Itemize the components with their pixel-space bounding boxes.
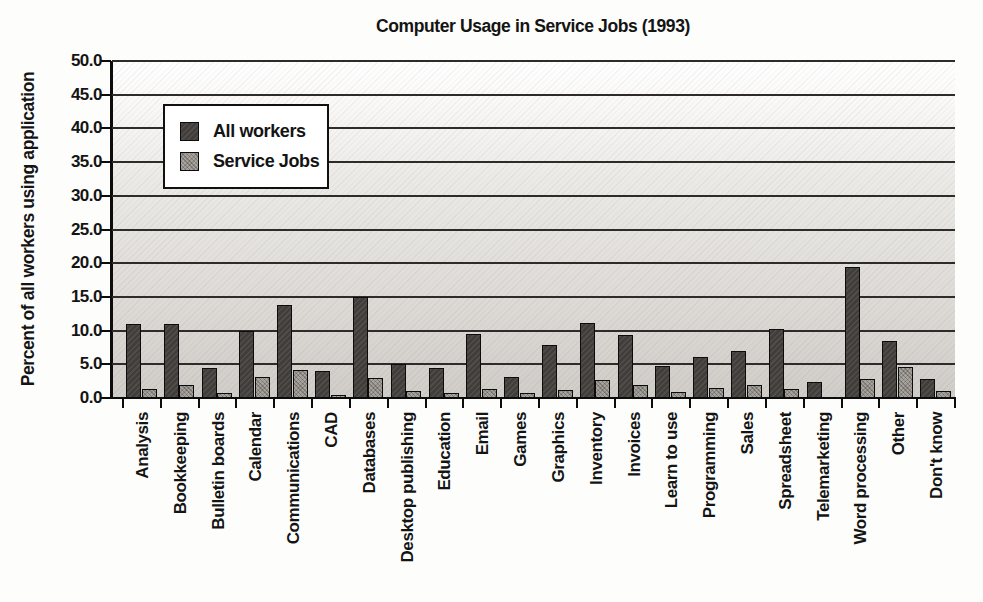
x-axis-label: Education bbox=[434, 412, 455, 597]
bar-all-workers-telemarketing bbox=[807, 382, 822, 398]
bar-all-workers-don-t-know bbox=[920, 379, 935, 398]
bar-service-jobs-other bbox=[898, 367, 913, 398]
x-axis-label: Calendar bbox=[245, 412, 266, 597]
legend-item-all-workers: All workers bbox=[180, 121, 327, 142]
x-axis-label: Invoices bbox=[624, 412, 645, 597]
y-tick-label: 30.0 bbox=[52, 186, 102, 206]
gridline-50 bbox=[112, 60, 955, 62]
x-tick bbox=[954, 398, 956, 408]
x-axis-label: Inventory bbox=[586, 412, 607, 597]
x-tick bbox=[122, 398, 124, 408]
y-tick bbox=[101, 195, 111, 197]
bar-service-jobs-email bbox=[482, 389, 497, 398]
bar-all-workers-education bbox=[429, 368, 444, 398]
x-tick bbox=[311, 398, 313, 408]
bar-service-jobs-communications bbox=[293, 370, 308, 398]
bar-service-jobs-spreadsheet bbox=[784, 389, 799, 398]
x-axis-label: Communications bbox=[283, 412, 304, 597]
x-axis-label: Email bbox=[472, 412, 493, 597]
bar-all-workers-learn-to-use bbox=[655, 366, 670, 398]
bar-chart-figure: Computer Usage in Service Jobs (1993) Pe… bbox=[0, 0, 983, 602]
chart-title: Computer Usage in Service Jobs (1993) bbox=[233, 16, 833, 40]
x-axis-label: CAD bbox=[321, 412, 342, 597]
y-tick-label: 20.0 bbox=[52, 253, 102, 273]
x-tick bbox=[349, 398, 351, 408]
bar-service-jobs-learn-to-use bbox=[671, 392, 686, 398]
y-tick-label: 50.0 bbox=[52, 51, 102, 71]
bar-all-workers-graphics bbox=[542, 345, 557, 398]
service-jobs-swatch-icon bbox=[180, 152, 199, 171]
y-tick-label: 10.0 bbox=[52, 321, 102, 341]
bar-service-jobs-education bbox=[444, 393, 459, 398]
x-tick bbox=[576, 398, 578, 408]
y-tick bbox=[101, 127, 111, 129]
x-tick bbox=[878, 398, 880, 408]
y-tick bbox=[101, 94, 111, 96]
bar-all-workers-bookkeeping bbox=[164, 324, 179, 398]
y-tick-label: 45.0 bbox=[52, 85, 102, 105]
y-tick bbox=[101, 330, 111, 332]
y-tick-label: 40.0 bbox=[52, 118, 102, 138]
legend-label: Service Jobs bbox=[213, 151, 319, 172]
gridline-30 bbox=[112, 195, 955, 197]
bar-service-jobs-sales bbox=[747, 385, 762, 398]
x-axis-label: Sales bbox=[737, 412, 758, 597]
x-tick bbox=[500, 398, 502, 408]
x-axis-label: Games bbox=[510, 412, 531, 597]
x-tick bbox=[273, 398, 275, 408]
bar-service-jobs-bulletin-boards bbox=[217, 393, 232, 398]
bar-service-jobs-graphics bbox=[558, 390, 573, 398]
x-axis-label: Spreadsheet bbox=[775, 412, 796, 597]
y-axis-label: Percent of all workers using application bbox=[16, 56, 40, 402]
y-tick bbox=[101, 60, 111, 62]
gridline-10 bbox=[112, 330, 955, 332]
y-tick bbox=[101, 363, 111, 365]
bar-all-workers-sales bbox=[731, 351, 746, 398]
y-tick-label: 25.0 bbox=[52, 220, 102, 240]
y-tick-label: 0.0 bbox=[52, 388, 102, 408]
x-tick bbox=[614, 398, 616, 408]
bar-service-jobs-games bbox=[520, 393, 535, 398]
y-tick bbox=[101, 161, 111, 163]
gridline-5 bbox=[112, 363, 955, 365]
x-axis-label: Word processing bbox=[850, 412, 871, 597]
x-tick bbox=[160, 398, 162, 408]
bar-all-workers-spreadsheet bbox=[769, 329, 784, 398]
x-tick bbox=[841, 398, 843, 408]
bar-all-workers-desktop-publishing bbox=[391, 364, 406, 398]
y-tick-label: 15.0 bbox=[52, 287, 102, 307]
y-tick bbox=[101, 262, 111, 264]
bar-all-workers-inventory bbox=[580, 323, 595, 398]
bar-service-jobs-cad bbox=[331, 395, 346, 398]
bar-service-jobs-inventory bbox=[595, 380, 610, 398]
y-tick-label: 35.0 bbox=[52, 152, 102, 172]
bar-all-workers-email bbox=[466, 334, 481, 398]
x-tick bbox=[803, 398, 805, 408]
bar-service-jobs-word-processing bbox=[860, 379, 875, 398]
x-tick bbox=[765, 398, 767, 408]
legend-item-service-jobs: Service Jobs bbox=[180, 151, 327, 172]
x-axis-label: Other bbox=[888, 412, 909, 597]
x-axis-label: Telemarketing bbox=[813, 412, 834, 597]
x-tick bbox=[387, 398, 389, 408]
x-tick bbox=[425, 398, 427, 408]
bar-all-workers-calendar bbox=[239, 331, 254, 398]
bar-all-workers-other bbox=[882, 341, 897, 398]
bar-all-workers-programming bbox=[693, 357, 708, 398]
legend-label: All workers bbox=[213, 121, 306, 142]
bar-service-jobs-databases bbox=[368, 378, 383, 398]
bar-all-workers-bulletin-boards bbox=[202, 368, 217, 398]
y-tick bbox=[101, 296, 111, 298]
bar-all-workers-analysis bbox=[126, 324, 141, 398]
gridline-20 bbox=[112, 262, 955, 264]
legend: All workers Service Jobs bbox=[163, 104, 329, 189]
bar-service-jobs-programming bbox=[709, 388, 724, 398]
bar-all-workers-word-processing bbox=[845, 267, 860, 398]
x-axis-label: Graphics bbox=[548, 412, 569, 597]
y-tick-label: 5.0 bbox=[52, 354, 102, 374]
y-tick bbox=[101, 397, 111, 399]
gridline-45 bbox=[112, 94, 955, 96]
gridline-25 bbox=[112, 229, 955, 231]
x-tick bbox=[538, 398, 540, 408]
bar-service-jobs-bookkeeping bbox=[179, 385, 194, 398]
